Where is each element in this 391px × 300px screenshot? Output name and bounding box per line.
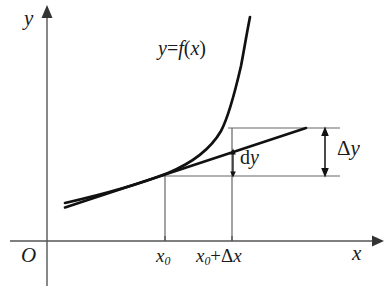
x0-subscript: 0 [164, 255, 170, 268]
delta-y-measure-arrow [321, 127, 329, 178]
curve-label-equals: = [167, 37, 178, 59]
differential-diagram-figure: y x O y=f(x) x0 x0+Δx dy Δy [0, 0, 391, 300]
x-axis-arrowhead-icon [372, 236, 384, 247]
x0dx-delta-symbol: Δ [221, 245, 233, 266]
axis-ticks-group [165, 236, 232, 241]
guide-lines-group [160, 128, 340, 241]
delta-y-variable: y [351, 136, 360, 160]
curve-label-argument: x [190, 37, 199, 59]
dy-arrowhead-down-icon [230, 172, 236, 178]
dy-measure-arrow [230, 149, 236, 178]
curve-label-paren-close: ) [199, 37, 206, 59]
curve-equation-label: y=f(x) [158, 38, 206, 58]
x0dx-plus-sign: + [210, 245, 221, 266]
curve-label-lhs: y [158, 37, 167, 59]
y-axis-label: y [24, 8, 33, 29]
dy-label: dy [240, 147, 259, 167]
x0-plus-delta-x-tick-label: x0+Δx [196, 246, 242, 268]
dy-differential-d: d [240, 146, 250, 168]
dy-variable: y [250, 146, 259, 168]
tangent-line [65, 128, 306, 208]
x-axis-label: x [352, 243, 361, 264]
x0dx-variable: x [233, 245, 241, 266]
x0-tick-label: x0 [156, 246, 170, 268]
origin-label: O [21, 245, 36, 266]
delta-y-label: Δy [337, 138, 360, 159]
y-axis-arrowhead-icon [42, 5, 53, 18]
delta-y-delta-symbol: Δ [337, 136, 351, 160]
